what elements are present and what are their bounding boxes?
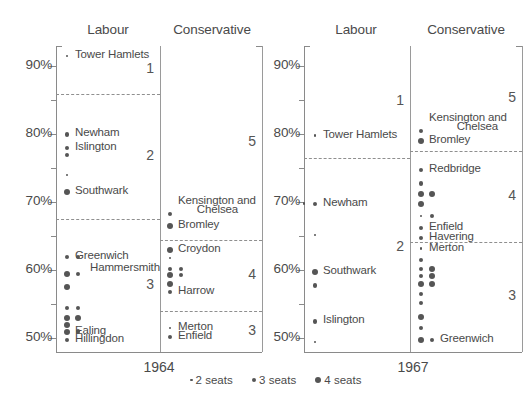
- data-point: [430, 338, 434, 342]
- dot-plot-chart: 90%80%70%60%50%90%80%70%60%50%LabourCons…: [0, 0, 529, 399]
- point-label: Southwark: [75, 184, 128, 196]
- band-number: 1: [384, 92, 404, 108]
- band-number: 3: [236, 322, 256, 338]
- point-label: Bromley: [429, 133, 470, 145]
- data-point: [65, 338, 69, 342]
- frame-corner-tick: [256, 46, 262, 47]
- x-axis-baseline: [56, 352, 262, 353]
- data-point: [64, 322, 70, 328]
- data-point: [76, 306, 80, 310]
- frame-corner-tick: [516, 46, 522, 47]
- point-label: Hammersmith: [90, 261, 160, 273]
- panel-separator: [522, 46, 523, 352]
- data-point: [64, 329, 70, 335]
- y-axis-tick-label: 70%: [10, 193, 52, 208]
- y-axis-minor-tick: [51, 236, 56, 237]
- band-divider: [56, 94, 160, 95]
- data-point: [168, 290, 172, 294]
- data-point: [64, 189, 70, 195]
- band-number: 2: [134, 147, 154, 163]
- point-label: Newham: [75, 126, 119, 138]
- legend-swatch-s3: [252, 378, 256, 382]
- data-point: [429, 191, 435, 197]
- data-point: [64, 271, 70, 277]
- data-point: [418, 281, 424, 287]
- y-axis-minor-tick: [51, 304, 56, 305]
- y-axis-minor-tick: [299, 168, 304, 169]
- column-title-conservative-1964: Conservative: [142, 22, 282, 37]
- y-axis-minor-tick: [299, 304, 304, 305]
- legend: 2 seats3 seats4 seats: [190, 374, 377, 386]
- band-number: 3: [134, 276, 154, 292]
- data-point: [430, 214, 434, 218]
- y-axis-tick-label: 70%: [258, 193, 300, 208]
- data-point: [419, 267, 423, 271]
- data-point: [65, 146, 69, 150]
- data-point: [65, 306, 69, 310]
- band-divider: [410, 151, 522, 152]
- legend-item: 3 seats: [252, 374, 296, 386]
- point-label: Chelsea: [166, 203, 238, 215]
- data-point: [75, 315, 81, 321]
- data-point: [429, 281, 435, 287]
- data-point: [418, 314, 424, 320]
- x-axis-baseline: [304, 352, 522, 353]
- y-axis-tick-label: 90%: [10, 57, 52, 72]
- data-point: [419, 236, 423, 240]
- data-point: [168, 335, 172, 339]
- data-point: [167, 272, 173, 278]
- data-point: [168, 267, 172, 271]
- data-point: [420, 247, 423, 250]
- y-axis-minor-tick: [299, 236, 304, 237]
- y-axis-line: [56, 46, 57, 352]
- data-point: [65, 255, 69, 259]
- point-label: Tower Hamlets: [323, 128, 397, 140]
- point-label: Bromley: [178, 218, 219, 230]
- point-label: Southwark: [323, 264, 376, 276]
- point-label: Enfield: [178, 329, 212, 341]
- data-point: [418, 201, 424, 207]
- data-point: [313, 319, 317, 323]
- data-point: [65, 153, 69, 157]
- data-point: [419, 274, 423, 278]
- data-point: [419, 326, 423, 330]
- data-point: [76, 272, 80, 276]
- data-point: [429, 273, 435, 279]
- band-number: 5: [236, 133, 256, 149]
- data-point: [66, 174, 69, 177]
- legend-label: 2 seats: [196, 374, 233, 386]
- legend-swatch-s2: [190, 379, 193, 382]
- point-label: Merton: [429, 241, 464, 253]
- band-number: 3: [496, 287, 516, 303]
- data-point: [179, 273, 183, 277]
- data-point: [313, 283, 317, 287]
- point-label: Chelsea: [416, 120, 498, 132]
- data-point: [167, 281, 173, 287]
- data-point: [314, 134, 317, 137]
- data-point: [314, 234, 317, 237]
- data-point: [65, 132, 69, 136]
- y-axis-line: [304, 46, 305, 352]
- band-divider: [56, 219, 160, 220]
- legend-swatch-s4: [315, 377, 321, 383]
- y-axis-tick-label: 50%: [10, 329, 52, 344]
- point-label: Islington: [323, 313, 364, 325]
- data-point: [64, 284, 70, 290]
- y-axis-minor-tick: [299, 100, 304, 101]
- y-axis-tick-label: 90%: [258, 57, 300, 72]
- data-point: [169, 327, 172, 330]
- column-title-conservative-1967: Conservative: [396, 22, 529, 37]
- data-point: [419, 226, 423, 230]
- y-axis-minor-tick: [51, 100, 56, 101]
- panel-separator: [410, 46, 411, 352]
- point-label: Tower Hamlets: [75, 48, 149, 60]
- data-point: [169, 257, 172, 260]
- band-number: 4: [496, 187, 516, 203]
- band-divider: [410, 242, 522, 243]
- data-point: [314, 341, 317, 344]
- y-axis-minor-tick: [51, 168, 56, 169]
- data-point: [64, 315, 70, 321]
- legend-item: 2 seats: [190, 374, 233, 386]
- band-divider: [160, 240, 262, 241]
- data-point: [312, 269, 318, 275]
